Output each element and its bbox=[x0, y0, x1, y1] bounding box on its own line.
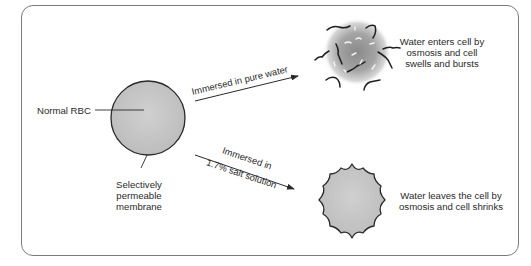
membrane-label: Selectively permeable membrane bbox=[108, 179, 170, 212]
burst-cell-icon bbox=[315, 18, 400, 90]
normal-rbc-label: Normal RBC bbox=[37, 105, 91, 116]
membrane-label-line: permeable bbox=[108, 190, 170, 201]
salt-result-line: Water leaves the cell by bbox=[392, 190, 510, 201]
pure-water-result-line: swells and bursts bbox=[392, 58, 492, 69]
membrane-label-line: membrane bbox=[108, 201, 170, 212]
pure-water-result-line: Water enters cell by bbox=[392, 36, 492, 47]
pure-water-result-text: Water enters cell by osmosis and cell sw… bbox=[392, 36, 492, 69]
salt-result-text: Water leaves the cell by osmosis and cel… bbox=[392, 190, 510, 212]
membrane-label-line: Selectively bbox=[108, 179, 170, 190]
pure-water-result-line: osmosis and cell bbox=[392, 47, 492, 58]
shrunken-cell-icon bbox=[319, 164, 385, 238]
membrane-leader-line bbox=[141, 155, 147, 168]
salt-result-line: osmosis and cell shrinks bbox=[392, 201, 510, 212]
normal-rbc-icon bbox=[111, 81, 185, 155]
